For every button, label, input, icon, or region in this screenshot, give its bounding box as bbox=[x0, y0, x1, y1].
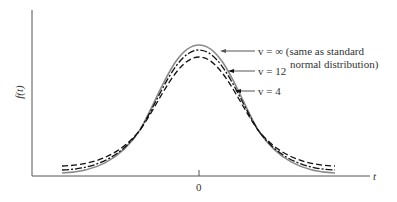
t-distribution-chart bbox=[0, 0, 397, 202]
x-axis-label: t bbox=[373, 170, 376, 182]
label-v4: v = 4 bbox=[258, 85, 281, 97]
label-v12: v = 12 bbox=[258, 65, 286, 77]
label-v-inf: v = ∞ (same as standard bbox=[258, 45, 364, 57]
x-tick-label-zero: 0 bbox=[196, 181, 202, 193]
curve-v4 bbox=[62, 57, 335, 166]
label-v-inf-line2: normal distribution) bbox=[290, 58, 378, 70]
y-axis-label: f(t) bbox=[13, 77, 25, 107]
arrow-head-inf bbox=[220, 49, 226, 53]
